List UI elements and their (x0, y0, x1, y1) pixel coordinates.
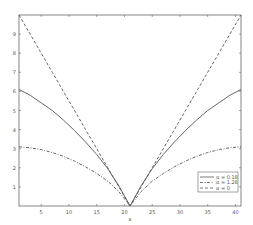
y-tick-label: 5 (13, 108, 16, 114)
x-tick-label: 10 (66, 209, 72, 215)
y-tick-label: 7 (13, 69, 16, 75)
line-chart: 510152025303540123456789 α = 0.18α = 1.2… (0, 0, 253, 225)
legend: α = 0.18α = 1.28α = 0 (198, 172, 238, 192)
x-tick-label: 15 (94, 209, 100, 215)
y-tick-label: 8 (13, 50, 16, 56)
x-tick-label: 35 (205, 209, 211, 215)
y-tick-label: 1 (13, 184, 16, 190)
legend-label: α = 0 (216, 185, 230, 191)
x-tick-label: 25 (149, 209, 155, 215)
x-tick-label: 5 (40, 209, 43, 215)
y-tick-label: 3 (13, 146, 16, 152)
x-tick-label: 40 (232, 209, 238, 215)
y-tick-label: 4 (13, 127, 16, 133)
y-tick-label: 9 (13, 31, 16, 37)
x-tick-label: 30 (177, 209, 183, 215)
y-tick-label: 6 (13, 88, 16, 94)
x-tick-label: 20 (121, 209, 127, 215)
x-axis-label: x (129, 216, 132, 222)
y-tick-label: 2 (13, 165, 16, 171)
